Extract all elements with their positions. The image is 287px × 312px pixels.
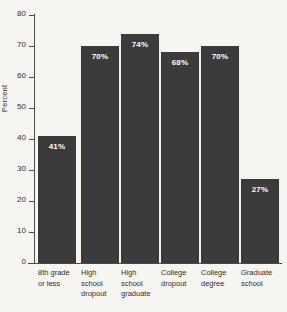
x-axis-category-label: High school graduate	[121, 268, 165, 300]
y-axis-tick-label: 50	[17, 102, 26, 111]
x-axis-line	[28, 263, 282, 264]
x-axis-category-label: College degree	[201, 268, 245, 289]
x-axis-category-label: High school dropout	[81, 268, 125, 300]
bar-value-label: 68%	[161, 58, 199, 67]
x-axis-category-label: 8th grade or less	[38, 268, 82, 289]
bar: 68%	[161, 52, 199, 263]
y-axis-tick-label: 70	[17, 40, 26, 49]
y-axis-tick-label: 20	[17, 195, 26, 204]
bar: 74%	[121, 34, 159, 263]
bar-value-label: 27%	[241, 185, 279, 194]
bar-value-label: 41%	[38, 142, 76, 151]
y-axis-tick-label: 0	[22, 257, 26, 266]
bar-value-label: 70%	[201, 52, 239, 61]
bar: 41%	[38, 136, 76, 263]
y-axis-tick-label: 80	[17, 9, 26, 18]
x-axis-category-label: College dropout	[161, 268, 205, 289]
bar-chart: Percent 80706050403020100 41%70%74%68%70…	[0, 0, 287, 312]
y-axis-tick-label: 60	[17, 71, 26, 80]
bar-value-label: 70%	[81, 52, 119, 61]
plot-area: 41%70%74%68%70%27%	[34, 15, 282, 263]
bar: 27%	[241, 179, 279, 263]
y-axis-tick-label: 30	[17, 164, 26, 173]
y-axis-title: Percent	[0, 85, 9, 112]
y-axis-tick-label: 10	[17, 226, 26, 235]
y-axis-tick-label: 40	[17, 133, 26, 142]
bar-value-label: 74%	[121, 40, 159, 49]
x-axis-category-label: Graduate school	[241, 268, 285, 289]
bar: 70%	[81, 46, 119, 263]
bar: 70%	[201, 46, 239, 263]
